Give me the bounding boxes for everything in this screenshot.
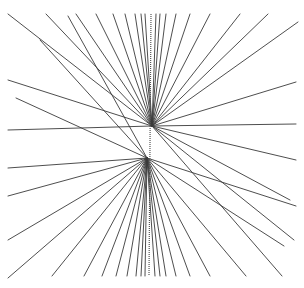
lower-ray-20 [8,158,147,168]
upper-ray-23 [152,126,282,276]
lower-ray-3 [52,158,147,276]
upper-ray-17 [152,22,298,126]
upper-ray-15 [152,14,240,126]
upper-ray-13 [152,14,190,126]
upper-ray-19 [152,124,296,126]
lower-ray-1 [8,158,147,240]
lower-ray-5 [102,158,147,276]
upper-ray-5 [125,14,152,126]
upper-ray-0 [8,14,152,126]
upper-ray-18 [152,82,296,126]
lower-ray-19 [147,158,296,206]
radial-line-drawing [0,0,304,288]
upper-ray-14 [152,14,210,126]
upper-ray-16 [152,14,268,126]
dotted-vertical-axis [149,14,151,276]
lower-ray-22 [40,40,147,158]
lower-ray-0 [8,158,147,196]
upper-ray-2 [76,14,152,126]
lower-ray-18 [147,158,284,246]
lower-fan-lines [8,16,296,278]
lower-ray-2 [8,158,147,278]
